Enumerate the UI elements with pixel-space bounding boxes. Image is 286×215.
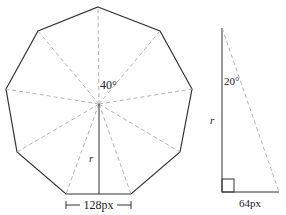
diagram-canvas: 40° r 128px 20° r 64px [0, 0, 286, 215]
triangle-base-label: 64px [239, 197, 262, 209]
nonagon-radius-label: r [89, 152, 94, 164]
triangle-radius-label: r [210, 114, 215, 126]
right-angle-marker [222, 179, 234, 192]
side-length-label: 128px [84, 198, 114, 212]
nonagon-angle-label: 40° [100, 78, 117, 92]
triangle-hypotenuse [222, 28, 279, 192]
triangle-angle-label: 20° [224, 75, 239, 87]
